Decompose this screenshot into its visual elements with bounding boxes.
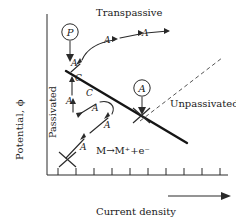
- passive-callout-label: P: [66, 27, 74, 38]
- x-mark-terminators: [59, 108, 150, 167]
- region-label-transpassive: Transpassive: [96, 7, 162, 18]
- curve-label-a6: A: [103, 35, 111, 45]
- cathodic-line-dashed: [140, 58, 222, 121]
- region-label-passivated: Passivated: [48, 86, 59, 138]
- x-axis-label: Current density Corrosion rate (log scal…: [96, 184, 176, 221]
- active-callout-label: A: [137, 83, 145, 94]
- curve-point-labels: A A A A C C A A A: [65, 28, 149, 152]
- x-axis-label-line-1: Current density: [96, 206, 176, 218]
- anodic-reaction-equation: M→M⁺+e⁻: [96, 145, 150, 156]
- curve-label-a5: A: [70, 58, 78, 68]
- curve-label-a4: A: [65, 96, 73, 106]
- curve-label-a2: A: [103, 120, 111, 130]
- x-axis-ticks: [58, 168, 220, 175]
- cathodic-line-solid: [66, 71, 187, 143]
- y-axis-label: Potential, ϕ: [14, 99, 25, 160]
- passive-callout: P: [62, 24, 78, 62]
- curve-label-a3: A: [91, 103, 99, 113]
- curve-label-c2: C: [75, 73, 82, 83]
- curve-label-a7: A: [141, 28, 149, 38]
- region-label-unpassivated: Unpassivated: [170, 98, 236, 109]
- curve-label-a1: A: [79, 142, 87, 152]
- x-axis-direction-arrow: [168, 192, 231, 200]
- curve-label-c1: C: [86, 88, 93, 98]
